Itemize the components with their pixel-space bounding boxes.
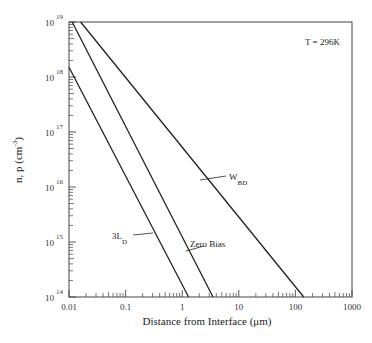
y-tick-label: 10 xyxy=(45,73,55,83)
x-axis-label: Distance from Interface (μm) xyxy=(143,315,272,328)
y-tick-exponent: 19 xyxy=(56,13,64,21)
svg-text:n, p (cm-3): n, p (cm-3) xyxy=(11,137,25,183)
x-tick-label: 10 xyxy=(234,302,244,312)
y-axis-label-close: ) xyxy=(12,137,25,141)
series-lines xyxy=(69,22,304,297)
y-tick-exponent: 15 xyxy=(56,233,64,241)
y-tick-label: 10 xyxy=(45,128,55,138)
x-tick-label: 1000 xyxy=(343,302,362,312)
y-tick-exponent: 18 xyxy=(56,68,64,76)
x-tick-label: 0.01 xyxy=(61,302,77,312)
series-label: WBD xyxy=(229,172,247,187)
x-tick-label: 0.1 xyxy=(120,302,131,312)
leader-line xyxy=(133,233,153,235)
y-tick-exponent: 16 xyxy=(56,178,64,186)
temperature-annotation: T = 296K xyxy=(305,37,340,47)
x-tick-label: 100 xyxy=(289,302,303,312)
y-tick-label: 10 xyxy=(45,293,55,303)
line-annotations: 3LDZero BiasWBD xyxy=(112,172,247,251)
y-tick-exponent: 14 xyxy=(56,288,64,296)
y-tick-label: 10 xyxy=(45,183,55,193)
y-axis-label-main: n, p (cm xyxy=(12,146,25,183)
chart: 0.010.11101001000 1014101510161017101810… xyxy=(0,0,372,343)
plot-border xyxy=(69,22,352,297)
series-line-3l-d xyxy=(69,67,189,297)
series-label: 3LD xyxy=(112,231,127,246)
plot-frame xyxy=(69,22,352,297)
leader-line xyxy=(200,176,226,180)
y-axis-label: n, p (cm-3) xyxy=(11,137,25,183)
x-tick-label: 1 xyxy=(180,302,185,312)
y-tick-exponent: 17 xyxy=(56,123,64,131)
series-label: Zero Bias xyxy=(190,239,226,249)
y-axis: 101410151016101710181019 xyxy=(45,13,76,303)
y-tick-label: 10 xyxy=(45,18,55,28)
y-tick-label: 10 xyxy=(45,238,55,248)
